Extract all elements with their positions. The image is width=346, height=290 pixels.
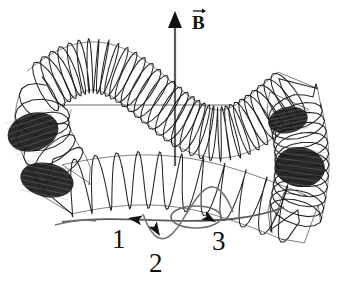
figure-canvas: B 1 2 3 [0, 0, 346, 290]
physics-diagram [0, 0, 346, 290]
magnetic-field-label: B [192, 13, 205, 32]
marker-label-3: 3 [212, 228, 226, 255]
magnetic-field-label-text: B [192, 12, 205, 33]
marker-label-1: 1 [112, 226, 126, 253]
marker-label-2: 2 [149, 250, 163, 277]
